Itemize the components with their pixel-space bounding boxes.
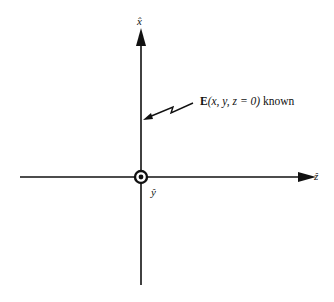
y-axis-label: ŷ	[151, 187, 156, 198]
leader-arrow	[149, 103, 193, 117]
field-suffix: known	[260, 95, 294, 107]
field-args: (x, y, z = 0)	[208, 95, 260, 107]
x-axis-arrowhead	[136, 28, 146, 46]
x-axis-label: x̂	[137, 16, 142, 27]
field-symbol: E	[200, 95, 208, 107]
axes-diagram	[0, 0, 334, 302]
leader-arrowhead	[143, 113, 153, 120]
field-annotation: E(x, y, z = 0) known	[200, 96, 294, 108]
z-axis-label: ẑ	[314, 171, 318, 182]
